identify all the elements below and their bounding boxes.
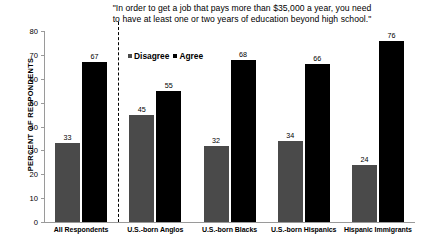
plot-area: 01020304050607080 3367All Respondents455… <box>44 31 415 222</box>
x-axis-category-label: All Respondents <box>44 226 118 233</box>
legend-swatch-icon <box>173 54 177 58</box>
y-axis-tick-mark <box>41 127 44 128</box>
y-axis-tick-label: 60 <box>16 74 38 83</box>
bar-value-label: 24 <box>360 155 368 164</box>
x-axis-category-label: U.S.-born Anglos <box>118 226 192 233</box>
x-axis-category-label: Hispanic Immigrants <box>341 226 415 233</box>
y-axis-line <box>44 31 45 222</box>
chart-title: "In order to get a job that pays more th… <box>72 3 412 25</box>
legend-label: Agree <box>179 51 203 61</box>
bar-value-label: 33 <box>64 133 72 142</box>
y-axis-tick-label: 70 <box>16 50 38 59</box>
y-axis-tick-mark <box>41 79 44 80</box>
legend-swatch-icon <box>128 54 132 58</box>
bar-value-label: 55 <box>165 81 173 90</box>
y-axis-tick-mark <box>41 150 44 151</box>
bar-group: 3367 <box>55 31 107 222</box>
chart-legend: DisagreeAgree <box>128 51 203 61</box>
bar-disagree[interactable]: 32 <box>204 146 229 222</box>
y-axis-tick-mark <box>41 31 44 32</box>
y-axis-tick-mark <box>41 103 44 104</box>
bar-disagree[interactable]: 34 <box>278 141 303 222</box>
bar-value-label: 67 <box>91 52 99 61</box>
bar-group: 3466 <box>278 31 330 222</box>
y-axis-tick-label: 40 <box>16 122 38 131</box>
bar-agree[interactable]: 66 <box>305 64 330 222</box>
y-axis-tick-label: 30 <box>16 146 38 155</box>
bar-disagree[interactable]: 24 <box>352 165 377 222</box>
bar-agree[interactable]: 76 <box>379 41 404 222</box>
bar-disagree[interactable]: 45 <box>129 115 154 222</box>
legend-item-disagree[interactable]: Disagree <box>128 51 169 61</box>
x-axis-category-label: U.S.-born Hispanics <box>267 226 341 233</box>
y-axis-tick-mark <box>41 55 44 56</box>
bar-value-label: 66 <box>313 54 321 63</box>
bar-agree[interactable]: 68 <box>231 60 256 222</box>
chart-title-line-2: to have at least one or two years of edu… <box>72 14 412 25</box>
bar-group: 2476 <box>352 31 404 222</box>
group-separator-line <box>118 22 119 222</box>
bar-agree[interactable]: 67 <box>82 62 107 222</box>
y-axis-tick-label: 50 <box>16 98 38 107</box>
y-axis-tick-label: 0 <box>16 218 38 227</box>
bar-value-label: 68 <box>239 50 247 59</box>
bar-chart: "In order to get a job that pays more th… <box>0 0 421 249</box>
bar-value-label: 34 <box>286 131 294 140</box>
y-axis-tick-mark <box>41 174 44 175</box>
bar-disagree[interactable]: 33 <box>55 143 80 222</box>
y-axis-tick-mark <box>41 222 44 223</box>
bar-group: 3268 <box>204 31 256 222</box>
x-axis-line <box>44 222 415 223</box>
chart-title-line-1: "In order to get a job that pays more th… <box>72 3 412 14</box>
x-axis-category-label: U.S.-born Blacks <box>192 226 266 233</box>
y-axis-tick-label: 20 <box>16 170 38 179</box>
y-axis-tick-mark <box>41 198 44 199</box>
bar-value-label: 45 <box>138 105 146 114</box>
bar-agree[interactable]: 55 <box>156 91 181 222</box>
y-axis-tick-label: 10 <box>16 194 38 203</box>
legend-label: Disagree <box>134 51 169 61</box>
y-axis-tick-label: 80 <box>16 27 38 36</box>
legend-item-agree[interactable]: Agree <box>173 51 203 61</box>
bar-value-label: 76 <box>387 31 395 40</box>
bar-value-label: 32 <box>212 136 220 145</box>
